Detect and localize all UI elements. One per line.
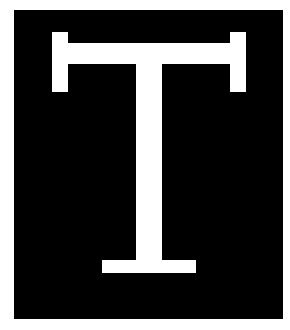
stem <box>136 43 162 273</box>
letter-t-icon: T <box>0 0 290 330</box>
foot <box>102 260 196 273</box>
letter-t-icon-canvas: T <box>0 0 290 330</box>
